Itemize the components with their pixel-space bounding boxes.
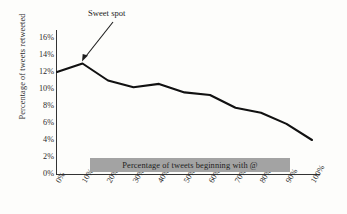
x-axis-tick-labels: 0%10%20%30%40%50%60%70%80%90%100% — [0, 0, 347, 214]
x-tick-label: 100% — [309, 163, 326, 184]
x-axis-title: Percentage of tweets beginning with @ — [122, 161, 257, 170]
x-axis-title-band: Percentage of tweets beginning with @ — [90, 158, 290, 172]
chart-figure: Percentage of tweets retweeted 0%2%4%6%8… — [0, 0, 347, 214]
x-tick-label: 0% — [54, 171, 67, 185]
